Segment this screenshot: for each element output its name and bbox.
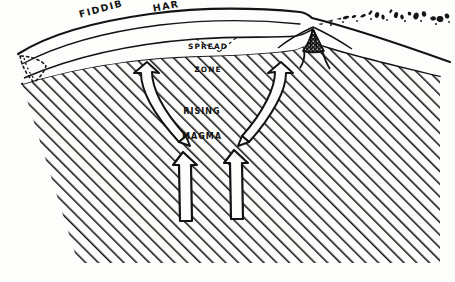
geology-cross-section-figure: FIDDIB HAR SPREAD ZONE RISING MAGMA	[0, 0, 455, 282]
label-rising-magma-line2: MAGMA	[182, 133, 222, 141]
label-rising-magma: RISING MAGMA	[182, 92, 222, 157]
label-spread-zone-line2: ZONE	[188, 66, 228, 74]
label-spread-zone-line1: SPREAD	[188, 43, 228, 51]
eruption-ejecta	[318, 9, 450, 26]
label-rising-magma-line1: RISING	[182, 108, 222, 116]
label-spread-zone: SPREAD ZONE	[188, 28, 228, 88]
